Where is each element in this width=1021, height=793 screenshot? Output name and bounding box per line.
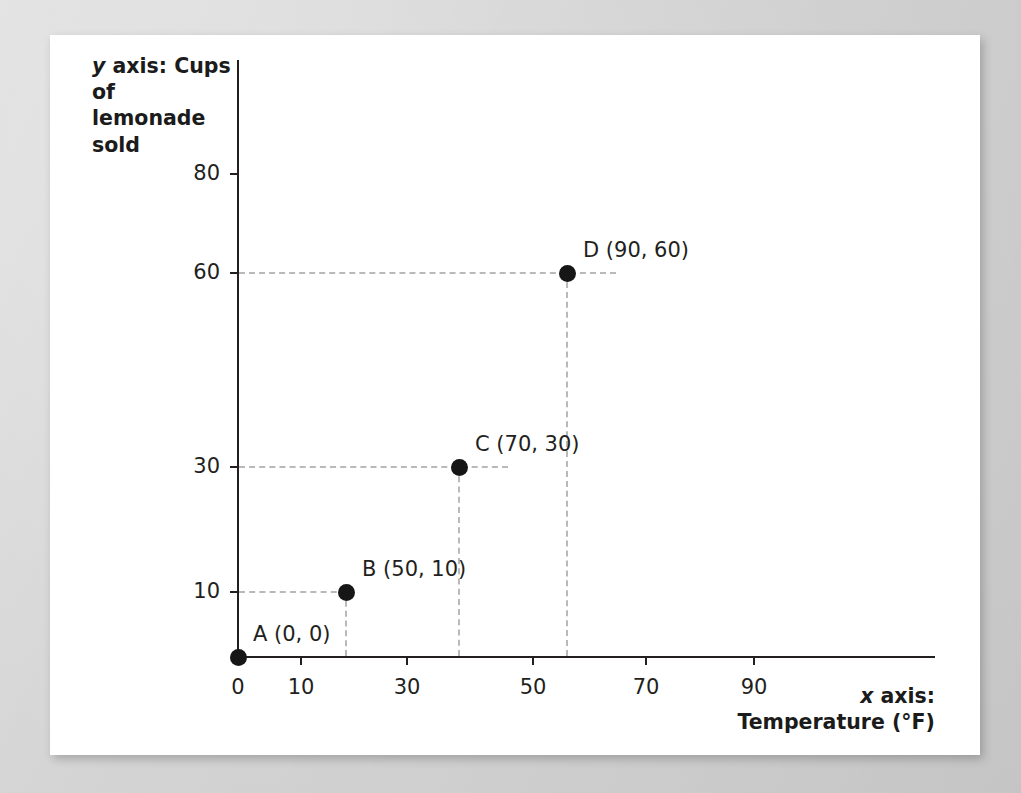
x-tick-10	[300, 656, 302, 665]
scatter-plot: y axis: Cups oflemonade sold x axis:Temp…	[50, 35, 980, 755]
x-tick-label-10: 10	[281, 675, 321, 699]
x-tick-label-50: 50	[513, 675, 553, 699]
gridline-horizontal-30	[239, 466, 508, 468]
y-tick-label-60: 60	[180, 260, 220, 284]
y-axis-title-line1: axis: Cups of	[92, 54, 231, 104]
chart-card: y axis: Cups oflemonade sold x axis:Temp…	[50, 35, 980, 755]
gridline-vertical-50	[345, 591, 347, 656]
y-tick-label-10: 10	[180, 579, 220, 603]
y-axis-title: y axis: Cups oflemonade sold	[92, 53, 240, 158]
data-point-b[interactable]	[338, 584, 355, 601]
y-tick-60	[230, 272, 239, 274]
x-tick-label-0: 0	[218, 675, 258, 699]
data-point-label-b: B (50, 10)	[362, 557, 466, 581]
x-axis-title-line1: axis:	[873, 684, 935, 708]
x-axis-title: x axis:Temperature (°F)	[650, 683, 935, 735]
gridline-horizontal-10	[239, 591, 347, 593]
x-tick-30	[406, 656, 408, 665]
x-tick-label-90: 90	[734, 675, 774, 699]
data-point-c[interactable]	[451, 459, 468, 476]
y-tick-label-80: 80	[180, 161, 220, 185]
data-point-label-a: A (0, 0)	[253, 622, 331, 646]
x-axis-title-symbol: x	[860, 684, 873, 708]
data-point-label-d: D (90, 60)	[583, 238, 689, 262]
x-tick-70	[645, 656, 647, 665]
y-axis-title-symbol: y	[92, 54, 105, 78]
x-axis-line	[237, 656, 935, 658]
y-tick-label-30: 30	[180, 454, 220, 478]
x-tick-50	[532, 656, 534, 665]
data-point-label-c: C (70, 30)	[475, 432, 580, 456]
y-tick-10	[230, 591, 239, 593]
x-tick-label-70: 70	[626, 675, 666, 699]
y-axis-line	[237, 60, 239, 657]
y-tick-30	[230, 466, 239, 468]
gridline-vertical-90	[566, 272, 568, 656]
data-point-d[interactable]	[559, 265, 576, 282]
x-tick-90	[753, 656, 755, 665]
x-tick-label-30: 30	[387, 675, 427, 699]
y-tick-80	[230, 173, 239, 175]
data-point-a[interactable]	[230, 649, 247, 666]
y-axis-title-line2: lemonade sold	[92, 106, 205, 156]
x-axis-title-line2: Temperature (°F)	[737, 710, 935, 734]
